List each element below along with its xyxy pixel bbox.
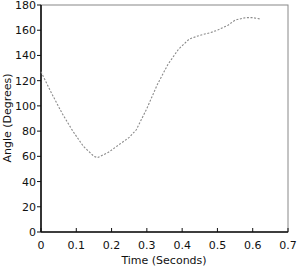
x-tick-label: 0.4 xyxy=(173,239,191,252)
x-tick-label: 0 xyxy=(38,239,45,252)
x-axis-label: Time (Seconds) xyxy=(120,254,206,267)
y-axis: 020406080100120140160180 xyxy=(15,0,41,239)
y-tick-label: 40 xyxy=(22,176,36,189)
x-tick-label: 0.5 xyxy=(209,239,227,252)
x-tick-label: 0.6 xyxy=(244,239,262,252)
line-chart: 020406080100120140160180 00.10.20.30.40.… xyxy=(0,0,297,268)
y-tick-label: 0 xyxy=(29,226,36,239)
y-tick-label: 180 xyxy=(15,0,36,12)
y-tick-label: 80 xyxy=(22,125,36,138)
x-tick-label: 0.2 xyxy=(103,239,121,252)
x-tick-label: 0.3 xyxy=(138,239,156,252)
y-tick-label: 60 xyxy=(22,150,36,163)
y-axis-label: Angle (Degrees) xyxy=(1,73,14,162)
y-tick-label: 20 xyxy=(22,201,36,214)
plot-frame xyxy=(41,5,288,232)
angle-series-line xyxy=(41,18,260,158)
y-tick-label: 120 xyxy=(15,75,36,88)
y-tick-label: 160 xyxy=(15,24,36,37)
x-tick-label: 0.1 xyxy=(68,239,86,252)
x-tick-label: 0.7 xyxy=(279,239,297,252)
y-tick-label: 100 xyxy=(15,100,36,113)
y-tick-label: 140 xyxy=(15,49,36,62)
